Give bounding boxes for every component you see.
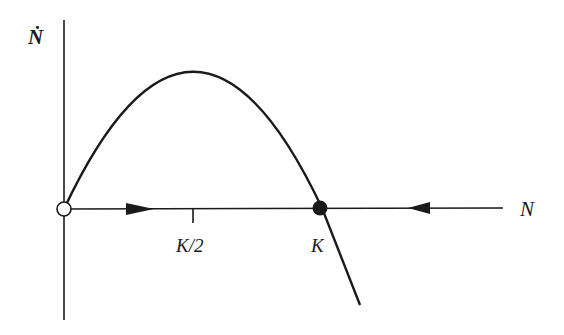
tick-label-k: K [311, 236, 324, 255]
phase-portrait [0, 0, 564, 335]
growth-curve [64, 72, 360, 305]
y-axis-label: Ṅ [28, 27, 43, 48]
unstable-fixed-point [57, 202, 71, 216]
flow-arrow-left [408, 202, 430, 214]
flow-arrow-right [126, 203, 154, 215]
tick-label-k-half: K/2 [176, 236, 203, 255]
x-axis-label: N [520, 199, 534, 220]
stable-fixed-point [313, 201, 328, 216]
